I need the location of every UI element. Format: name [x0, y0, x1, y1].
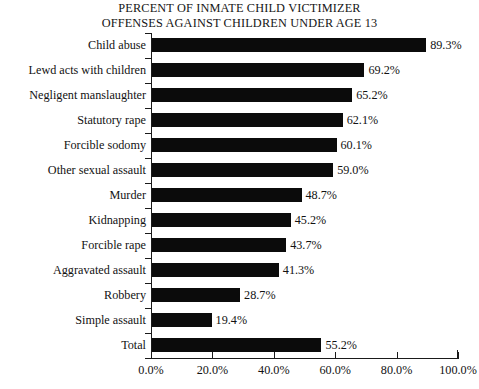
bar-value-label: 60.1% — [341, 136, 372, 154]
bar-value-label: 43.7% — [290, 236, 321, 254]
x-axis-tick — [151, 352, 152, 359]
category-label: Lewd acts with children — [29, 61, 146, 79]
bar-row: Murder48.7% — [0, 183, 479, 208]
bar-row: Aggravated assault41.3% — [0, 258, 479, 283]
bar-row: Robbery28.7% — [0, 283, 479, 308]
bar-value-label: 48.7% — [306, 186, 337, 204]
bar-value-label: 45.2% — [295, 211, 326, 229]
category-label: Simple assault — [75, 311, 146, 329]
y-axis-tick — [145, 83, 152, 84]
bar-row: Child abuse89.3% — [0, 33, 479, 58]
bar-value-label: 41.3% — [283, 261, 314, 279]
bar-value-label: 28.7% — [244, 286, 275, 304]
x-axis-tick — [335, 352, 336, 359]
y-axis-tick — [145, 233, 152, 234]
category-label: Robbery — [104, 286, 146, 304]
y-axis-tick — [145, 158, 152, 159]
bar — [152, 313, 212, 327]
bar-row: Simple assault19.4% — [0, 308, 479, 333]
bar-row: Total55.2% — [0, 333, 479, 358]
y-axis-tick — [145, 133, 152, 134]
category-label: Child abuse — [88, 36, 146, 54]
x-axis-tick-label: 20.0% — [182, 362, 242, 378]
bar-row: Lewd acts with children69.2% — [0, 58, 479, 83]
chart-title: PERCENT OF INMATE CHILD VICTIMIZER OFFEN… — [0, 1, 479, 31]
bar-chart: PERCENT OF INMATE CHILD VICTIMIZER OFFEN… — [0, 0, 479, 389]
bar — [152, 138, 337, 152]
y-axis-tick — [145, 258, 152, 259]
bar-row: Other sexual assault59.0% — [0, 158, 479, 183]
bar-value-label: 55.2% — [325, 336, 356, 354]
bar-row: Forcible sodomy60.1% — [0, 133, 479, 158]
bar — [152, 238, 286, 252]
category-label: Total — [121, 336, 146, 354]
bar-value-label: 89.3% — [430, 36, 461, 54]
y-axis-tick — [145, 208, 152, 209]
chart-title-line-1: PERCENT OF INMATE CHILD VICTIMIZER — [0, 1, 479, 16]
category-label: Kidnapping — [88, 211, 146, 229]
x-axis-tick — [212, 352, 213, 359]
x-axis-tick-label: 0.0% — [121, 362, 181, 378]
bar-value-label: 59.0% — [337, 161, 368, 179]
bar-row: Kidnapping45.2% — [0, 208, 479, 233]
chart-title-line-2: OFFENSES AGAINST CHILDREN UNDER AGE 13 — [0, 16, 479, 31]
x-axis-tick-label: 40.0% — [244, 362, 304, 378]
x-axis-tick-label: 100.0% — [428, 362, 479, 378]
x-axis-tick — [274, 352, 275, 359]
y-axis-tick — [145, 333, 152, 334]
x-axis-tick — [397, 352, 398, 359]
bar-row: Forcible rape43.7% — [0, 233, 479, 258]
y-axis-tick — [145, 283, 152, 284]
y-axis-tick — [145, 58, 152, 59]
bar — [152, 113, 343, 127]
bar — [152, 188, 302, 202]
y-axis-tick — [145, 108, 152, 109]
bar-row: Negligent manslaughter65.2% — [0, 83, 479, 108]
bar-value-label: 19.4% — [216, 311, 247, 329]
bar — [152, 88, 352, 102]
bar — [152, 163, 333, 177]
bar — [152, 288, 240, 302]
bar — [152, 38, 426, 52]
x-axis-line — [151, 358, 459, 359]
y-axis-tick — [145, 308, 152, 309]
bar — [152, 213, 291, 227]
category-label: Murder — [109, 186, 146, 204]
x-axis-tick — [458, 352, 459, 359]
bar — [152, 63, 364, 77]
y-axis-tick — [145, 183, 152, 184]
category-label: Forcible rape — [81, 236, 146, 254]
bar-value-label: 62.1% — [347, 111, 378, 129]
category-label: Statutory rape — [77, 111, 146, 129]
y-axis-tick — [145, 33, 152, 34]
bar-value-label: 69.2% — [368, 61, 399, 79]
category-label: Negligent manslaughter — [29, 86, 146, 104]
category-label: Aggravated assault — [53, 261, 146, 279]
bar-row: Statutory rape62.1% — [0, 108, 479, 133]
bar — [152, 263, 279, 277]
bar-value-label: 65.2% — [356, 86, 387, 104]
bar — [152, 338, 321, 352]
category-label: Forcible sodomy — [64, 136, 146, 154]
x-axis-tick-label: 80.0% — [367, 362, 427, 378]
x-axis-tick-label: 60.0% — [305, 362, 365, 378]
category-label: Other sexual assault — [48, 161, 146, 179]
